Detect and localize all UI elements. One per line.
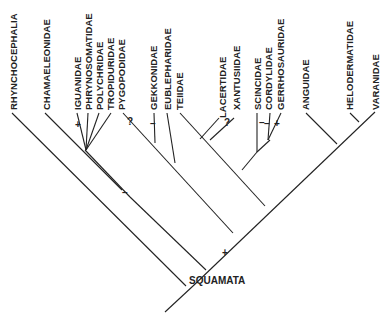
branch-cordylid-node [257, 140, 270, 152]
mark-gerrhosauridae: + [274, 118, 280, 129]
mark-cordylidae: – [264, 118, 270, 129]
label-phrynosomatidae: PHRYNOSOMATIDAE [83, 13, 94, 110]
branch-teiidae [180, 113, 265, 206]
branch-rhynchocephalia [12, 113, 186, 286]
label-helodermatidae: HELODERMATIDAE [344, 21, 355, 110]
label-teiidae: TEIIDAE [174, 73, 185, 110]
label-chamaeleonidae: CHAMAELEONIDAE [41, 19, 52, 110]
label-iguanidae: IGUANIDAE [72, 57, 83, 110]
mark-xantusiidae: ? [224, 117, 230, 128]
cladogram: RHYNCHOCEPHALIA CHAMAELEONIDAE IGUANIDAE… [0, 0, 386, 320]
branch-eublepharidae [167, 113, 175, 163]
label-lacertidae: LACERTIDAE [217, 57, 228, 118]
label-xantusiidae: XANTUSIIDAE [231, 46, 242, 110]
label-polychridae: POLYCHRIDAE [94, 42, 105, 110]
mark-squamata-stem: + [222, 247, 228, 258]
branch-helodermatidae [350, 113, 359, 122]
label-scincidae: SCINCIDAE [252, 58, 263, 110]
label-gekkonidae: GEKKONIDAE [148, 46, 159, 110]
branch-chamaeleonidae-upper [45, 113, 122, 190]
label-eublepharidae: EUBLEPHARIDAE [162, 28, 173, 110]
branch-scincoidea [242, 152, 257, 170]
branch-lacertidae [200, 118, 219, 139]
squamata-backbone [193, 112, 375, 286]
label-pygopodidae: PYGOPODIDAE [116, 39, 127, 110]
branch-tropiduridae [86, 113, 111, 150]
label-cordylidae: CORDYLIDAE [263, 47, 274, 110]
branch-chamaeleonidae-lower [130, 197, 206, 270]
branch-xantusiidae [210, 118, 234, 140]
label-rhynchocephalia: RHYNCHOCEPHALIA [8, 13, 19, 110]
mark-pygopodidae: ? [127, 116, 133, 127]
branch-pygopodidae [123, 113, 233, 233]
label-tropiduridae: TROPIDURIDAE [105, 38, 116, 110]
label-anguidae: ANGUIDAE [300, 59, 311, 110]
mark-gekkonidae: – [150, 118, 156, 129]
label-squamata: SQUAMATA [189, 275, 245, 286]
label-gerrhosauridae: GERRHOSAURIDAE [275, 19, 286, 110]
mark-chamaeleonidae-stem: – [122, 187, 128, 198]
root-stem [165, 286, 193, 312]
branch-anguidae [306, 113, 337, 144]
label-varanidae: VARANIDAE [370, 54, 381, 110]
mark-iguanidae: + [75, 119, 81, 130]
